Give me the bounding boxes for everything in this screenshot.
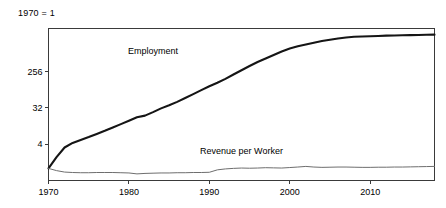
y-tick-label: 256 (27, 67, 42, 77)
chart-container: 1970 = 1 432256 19701980199020002010 Emp… (0, 0, 446, 208)
series-label-employment: Employment (128, 46, 179, 56)
x-tick-label: 1980 (119, 187, 139, 197)
y-axis-tick-labels: 432256 (27, 67, 42, 150)
series-line-revenue-per-worker (49, 166, 435, 173)
x-tick-label: 1990 (199, 187, 219, 197)
chart-plot-area: 432256 19701980199020002010 EmploymentRe… (0, 0, 446, 208)
series-label-revenue-per-worker: Revenue per Worker (200, 146, 283, 156)
x-tick-label: 2010 (360, 187, 380, 197)
x-tick-label: 2000 (280, 187, 300, 197)
plot-frame (49, 29, 435, 181)
x-tick-label: 1970 (38, 187, 58, 197)
x-axis-tick-labels: 19701980199020002010 (38, 187, 380, 197)
y-tick-label: 32 (32, 103, 42, 113)
series-annotations: EmploymentRevenue per Worker (128, 46, 283, 156)
y-tick-label: 4 (37, 139, 42, 149)
